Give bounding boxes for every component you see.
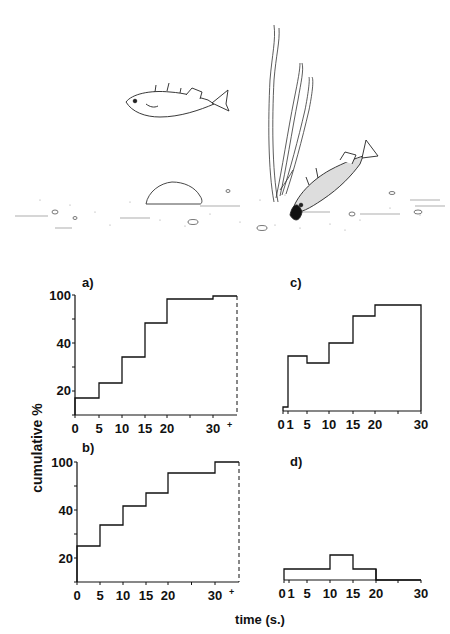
x-tick-label: 15 <box>346 417 360 432</box>
x-tick-label: 15 <box>139 588 153 603</box>
panel-label: b) <box>82 440 94 455</box>
chart-panel-a: a)20401000510152030+ <box>49 275 237 436</box>
x-tick-label: 30 <box>414 417 428 432</box>
x-tick-label: 20 <box>368 417 382 432</box>
x-tick-label: 15 <box>138 421 152 436</box>
step-line <box>283 305 421 411</box>
y-axis-label: cumulative % <box>29 403 45 493</box>
y-tick-label: 100 <box>49 288 71 303</box>
x-tick-label-plus: + <box>227 420 232 430</box>
x-tick-label: 0 <box>73 588 80 603</box>
x-tick-label: 30 <box>208 588 222 603</box>
x-tick-label: 0 <box>71 421 78 436</box>
x-tick-label: 5 <box>95 421 102 436</box>
chart-panel-c: c)01510152030 <box>277 275 428 432</box>
x-tick-label: 20 <box>161 588 175 603</box>
x-tick-label: 30 <box>206 421 220 436</box>
x-tick-label: 0 <box>277 417 284 432</box>
charts-area: a)20401000510152030+b)20401000510152030+… <box>0 250 450 634</box>
y-tick-label: 100 <box>51 455 73 470</box>
y-tick-label: 40 <box>59 503 73 518</box>
x-tick-label: 10 <box>115 421 129 436</box>
x-tick-label: 5 <box>96 588 103 603</box>
stickleback-illustration <box>0 0 450 250</box>
x-tick-label: 10 <box>116 588 130 603</box>
water-plant <box>269 25 313 202</box>
swimming-fish <box>126 83 229 117</box>
pebbles <box>52 190 422 231</box>
x-tick-label: 20 <box>369 586 383 601</box>
chart-panel-b: b)20401000510152030+ <box>51 440 239 603</box>
x-tick-label: 5 <box>303 417 310 432</box>
x-tick-label: 1 <box>287 586 294 601</box>
y-tick-label: 20 <box>57 383 71 398</box>
x-tick-label: 20 <box>160 421 174 436</box>
x-axis-label: time (s.) <box>235 612 285 627</box>
x-tick-label: 0 <box>278 586 285 601</box>
digging-fish <box>290 140 378 220</box>
stone <box>146 182 202 204</box>
panel-label: d) <box>290 454 302 469</box>
step-line <box>77 462 239 582</box>
panel-label: a) <box>82 275 94 290</box>
x-tick-label: 10 <box>323 586 337 601</box>
x-tick-label: 10 <box>322 417 336 432</box>
y-tick-label: 20 <box>59 551 73 566</box>
y-tick-label: 40 <box>57 336 71 351</box>
x-tick-label: 30 <box>414 586 428 601</box>
chart-panel-d: d)01510152030 <box>278 454 428 601</box>
sand-speckles <box>39 194 420 230</box>
x-tick-label: 1 <box>286 417 293 432</box>
step-line <box>284 555 421 580</box>
x-tick-label: 15 <box>346 586 360 601</box>
x-tick-label: 5 <box>303 586 310 601</box>
step-line <box>75 296 237 415</box>
sandy-bottom <box>15 200 445 228</box>
x-tick-label-plus: + <box>229 587 234 597</box>
panel-label: c) <box>290 275 302 290</box>
